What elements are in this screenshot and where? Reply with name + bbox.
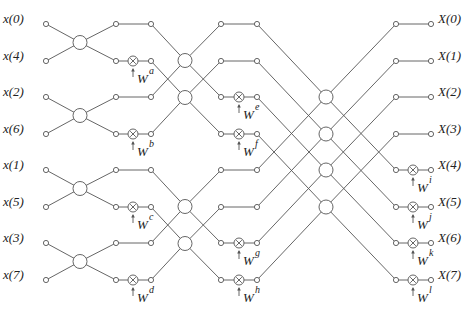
multiplier-icon [128, 202, 138, 212]
input-label: x(6) [2, 121, 24, 136]
node-circle [148, 94, 153, 99]
twiddle-label: W [243, 107, 255, 122]
butterfly-junction-icon [178, 237, 192, 251]
node-circle [113, 204, 118, 209]
twiddle-exponent: i [429, 174, 432, 185]
butterfly-wire [151, 24, 185, 61]
butterfly-junction-icon [178, 200, 192, 214]
node-circle [428, 58, 433, 63]
node-circle [393, 21, 398, 26]
node-circle [148, 131, 153, 136]
fft-flow-graph: WaWbWcWdWeWfWgWhWiWjWkWlx(0)x(4)x(2)x(6)… [0, 0, 474, 317]
node-circle [113, 240, 118, 245]
twiddle-exponent: g [255, 247, 260, 258]
output-label: X(6) [437, 230, 461, 245]
node-circle [113, 277, 118, 282]
node-circle [43, 167, 48, 172]
node-circle [113, 58, 118, 63]
butterfly-junction-icon [319, 200, 333, 214]
node-circle [148, 240, 153, 245]
multiplier-icon [408, 238, 418, 248]
multiplier-icon [128, 129, 138, 139]
node-circle [254, 277, 259, 282]
twiddle-exponent: d [149, 284, 155, 295]
butterfly-wire [326, 61, 396, 134]
node-circle [148, 167, 153, 172]
output-label: X(4) [437, 157, 461, 172]
node-circle [254, 21, 259, 26]
node-circle [393, 94, 398, 99]
node-circle [393, 167, 398, 172]
node-circle [254, 58, 259, 63]
multiplier-icon [408, 165, 418, 175]
node-circle [428, 204, 433, 209]
butterfly-wire [257, 24, 326, 97]
node-circle [393, 131, 398, 136]
twiddle-label: W [417, 217, 429, 232]
twiddle-exponent: h [255, 284, 260, 295]
twiddle-label: W [137, 71, 149, 86]
node-circle [113, 131, 118, 136]
node-circle [113, 21, 118, 26]
butterfly-wire [257, 207, 326, 280]
butterfly-wire [151, 98, 185, 135]
output-label: X(2) [437, 84, 461, 99]
node-circle [393, 204, 398, 209]
node-circle [428, 240, 433, 245]
butterfly-junction-icon [73, 182, 87, 196]
butterfly-junction-icon [73, 36, 87, 50]
node-circle [393, 240, 398, 245]
butterfly-junction-icon [73, 109, 87, 123]
twiddle-label: W [417, 180, 429, 195]
multiplier-icon [234, 238, 244, 248]
labels: WaWbWcWdWeWfWgWhWiWjWkWlx(0)x(4)x(2)x(6)… [2, 11, 461, 305]
node-circle [113, 167, 118, 172]
butterfly-wire [151, 244, 185, 281]
node-circle [43, 21, 48, 26]
node-circle [254, 167, 259, 172]
butterfly-wire [151, 170, 185, 207]
input-label: x(5) [2, 194, 24, 209]
node-circle [428, 277, 433, 282]
input-label: x(2) [2, 84, 24, 99]
node-circle [218, 277, 223, 282]
output-label: X(5) [437, 194, 461, 209]
twiddle-label: W [137, 144, 149, 159]
output-label: X(3) [437, 121, 461, 136]
node-circle [43, 240, 48, 245]
node-circle [254, 94, 259, 99]
node-circle [218, 21, 223, 26]
butterfly-wire [326, 207, 396, 280]
twiddle-exponent: e [255, 101, 260, 112]
node-circle [254, 204, 259, 209]
node-circle [218, 167, 223, 172]
input-label: x(0) [2, 11, 24, 26]
multiplier-icon [234, 92, 244, 102]
node-circle [428, 21, 433, 26]
node-circle [43, 131, 48, 136]
input-label: x(1) [2, 157, 24, 172]
node-circle [218, 131, 223, 136]
node-circle [148, 21, 153, 26]
butterfly-wire [185, 244, 221, 281]
output-label: X(1) [437, 48, 461, 63]
node-circle [218, 94, 223, 99]
node-circle [218, 58, 223, 63]
twiddle-exponent: f [255, 138, 259, 149]
multiplier-icon [408, 202, 418, 212]
butterfly-wire [257, 170, 326, 243]
node-circle [148, 277, 153, 282]
multiplier-icon [128, 275, 138, 285]
output-label: X(7) [437, 267, 461, 282]
output-label: X(0) [437, 11, 461, 26]
node-circle [393, 58, 398, 63]
twiddle-label: W [417, 290, 429, 305]
node-circle [254, 240, 259, 245]
node-circle [43, 58, 48, 63]
multiplier-icon [408, 275, 418, 285]
twiddle-exponent: l [429, 284, 432, 295]
butterfly-junction-icon [178, 54, 192, 68]
node-circle [43, 94, 48, 99]
node-circle [113, 94, 118, 99]
node-circle [43, 277, 48, 282]
